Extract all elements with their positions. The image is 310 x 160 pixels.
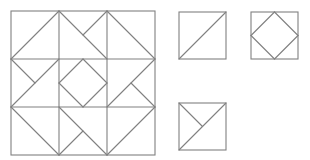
block-cell-r2-c2 bbox=[107, 107, 155, 155]
square-in-square-piece bbox=[251, 12, 298, 59]
cell-line bbox=[107, 107, 155, 155]
cell-line bbox=[83, 83, 107, 107]
half-square-triangle-piece bbox=[179, 12, 226, 59]
quilt-block-diagram bbox=[0, 0, 310, 160]
main-block-outline bbox=[11, 11, 155, 155]
block-cell-r1-c0 bbox=[11, 59, 59, 107]
block-cell-r2-c1 bbox=[59, 107, 107, 155]
piece-line bbox=[275, 12, 299, 36]
piece-line bbox=[251, 12, 275, 36]
cell-line bbox=[131, 83, 155, 107]
cell-line bbox=[59, 83, 83, 107]
quarter-triangle-piece bbox=[179, 103, 226, 150]
cell-line bbox=[59, 59, 83, 83]
cell-line bbox=[11, 59, 35, 83]
cell-line bbox=[59, 131, 83, 155]
block-cell-r1-c2 bbox=[107, 59, 155, 107]
piece-line bbox=[251, 36, 275, 60]
cell-line bbox=[11, 107, 59, 155]
cell-line bbox=[11, 11, 59, 59]
block-cell-r0-c2 bbox=[107, 11, 155, 59]
block-cell-r0-c1 bbox=[59, 11, 107, 59]
cell-line bbox=[83, 59, 107, 83]
block-cell-r1-c1 bbox=[59, 59, 107, 107]
piece-line bbox=[179, 12, 226, 59]
main-quilt-block bbox=[11, 11, 155, 155]
component-pieces bbox=[179, 12, 298, 150]
block-cell-r0-c0 bbox=[11, 11, 59, 59]
block-cell-r2-c0 bbox=[11, 107, 59, 155]
square-in-square-piece-outline bbox=[251, 12, 298, 59]
piece-line bbox=[275, 36, 299, 60]
cell-line bbox=[83, 11, 107, 35]
cell-line bbox=[107, 11, 155, 59]
piece-line bbox=[179, 103, 203, 127]
